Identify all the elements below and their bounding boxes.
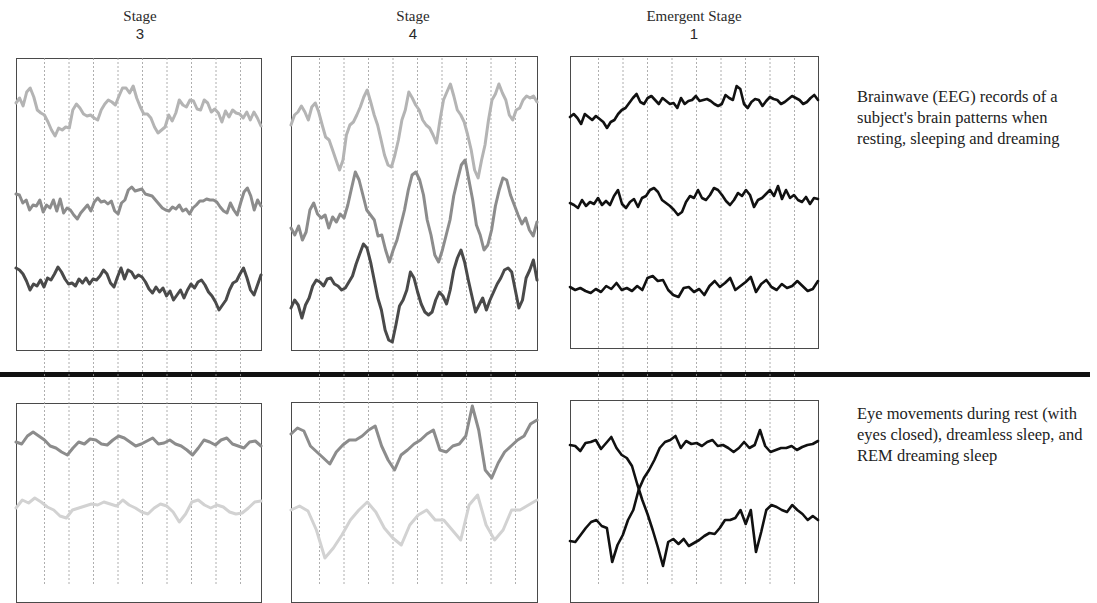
trace-line — [16, 267, 261, 310]
eeg-caption: Brainwave (EEG) records of a subject's b… — [857, 86, 1097, 149]
trace-line — [291, 244, 537, 342]
trace-line — [16, 86, 261, 136]
trace-line — [570, 186, 818, 215]
trace-line — [16, 498, 261, 522]
eye-movement-caption: Eye movements during rest (with eyes clo… — [857, 403, 1097, 466]
trace-line — [16, 187, 261, 219]
trace-line — [570, 86, 818, 128]
trace-line — [291, 406, 537, 478]
trace-line — [570, 437, 818, 566]
trace-line — [291, 495, 537, 558]
trace-line — [291, 84, 537, 178]
trace-line — [570, 276, 818, 297]
trace-line — [291, 160, 537, 262]
trace-line — [16, 432, 261, 455]
